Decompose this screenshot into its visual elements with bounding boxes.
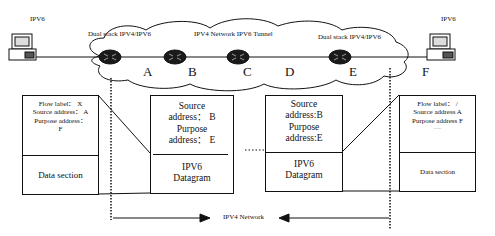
node-letter-e: E <box>349 65 357 78</box>
ipv6-tunnel-diagram: IPV6 IPV6 Dual stack IPV4/IPV6 IPV4 Netw… <box>0 0 495 236</box>
computer-icon-left <box>9 34 36 60</box>
packet-ipv6-decapsulated-right: Flow label： / Source address A Purpose a… <box>399 95 476 192</box>
packet-header: Source address： B Purpose address： E <box>151 101 233 147</box>
arrow-left <box>279 214 389 222</box>
packet-header: Source address:B Purpose address:E <box>266 99 342 145</box>
packet-encapsulated-2: Source address:B Purpose address:E IPV6 … <box>265 95 343 192</box>
dual-stack-label-left: Dual stack IPV4/IPV6 <box>88 31 151 38</box>
packet-body: IPV6 Datagram <box>266 159 342 182</box>
node-letter-b: B <box>188 65 197 78</box>
host-label-left: IPV6 <box>30 16 45 23</box>
node-letter-d: D <box>285 65 294 78</box>
computer-icon-right <box>427 34 455 60</box>
node-letter-c: C <box>243 65 252 78</box>
packet-body: Data section <box>23 170 98 181</box>
node-letter-f: F <box>422 65 429 78</box>
dual-stack-label-right: Dual stack IPV4/IPV6 <box>318 34 381 41</box>
packet-encapsulated-1: Source address： B Purpose address： E IPV… <box>150 95 234 194</box>
packet-header: Flow label： / Source address A Purpose a… <box>400 100 475 131</box>
packet-body: Data section <box>400 168 475 176</box>
packet-body: IPV6 Datagram <box>151 162 233 185</box>
ipv4-network-label: IPV4 Network <box>223 214 264 221</box>
arrow-right <box>113 214 210 222</box>
packet-ipv6-original-left: Flow label： X Source address： A Purpose … <box>22 95 99 195</box>
tunnel-label: IPV4 Network IPV6 Tunnel <box>194 31 273 38</box>
host-label-right: IPV6 <box>441 16 456 23</box>
packet-header: Flow label： X Source address： A Purpose … <box>23 100 98 134</box>
node-letter-a: A <box>143 65 152 78</box>
